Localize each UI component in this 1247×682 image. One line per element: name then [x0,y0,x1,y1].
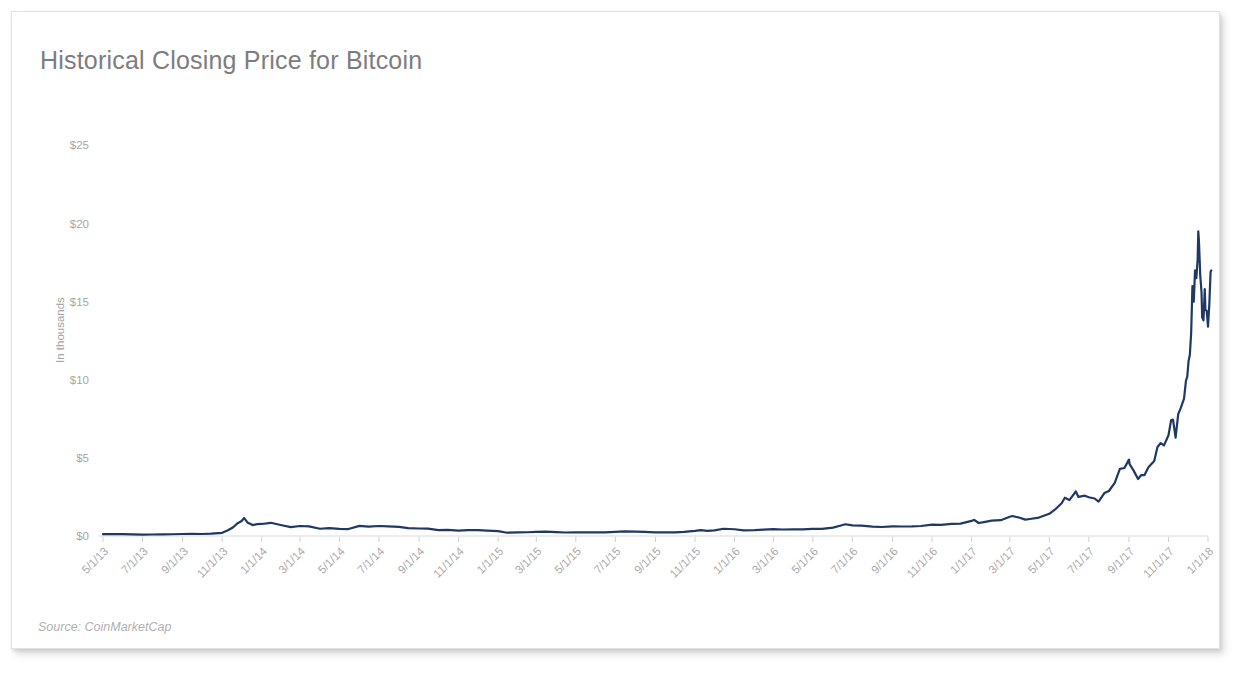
x-axis-tick-label: 1/1/17 [948,545,979,576]
x-axis-tick-label: 1/1/16 [711,545,742,576]
x-axis-tick-label: 9/1/13 [159,545,190,576]
y-axis-tick-label: $0 [76,530,89,542]
x-axis-tick-label: 7/1/15 [592,545,623,576]
source-note: Source: CoinMarketCap [38,620,171,634]
x-axis-tick-label: 5/1/13 [79,545,110,576]
x-axis-tick-label: 9/1/14 [395,545,427,577]
y-axis-tick-label: $10 [70,374,89,386]
x-axis-tick-label: 9/1/17 [1105,545,1136,576]
series-line-0 [103,231,1211,534]
x-axis-tick-label: 7/1/14 [355,545,387,577]
y-axis-tick-label: $5 [76,452,89,464]
x-axis-tick-label: 11/1/14 [431,545,466,580]
y-axis-tick-label: $15 [70,296,89,308]
x-axis-tick-group: 5/1/137/1/139/1/1311/1/131/1/143/1/145/1… [79,537,1215,580]
chart-card: Historical Closing Price for Bitcoin $0$… [11,11,1220,649]
x-axis-tick-label: 7/1/13 [119,545,150,576]
x-axis-tick-label: 5/1/17 [1026,545,1057,576]
x-axis-tick-label: 11/1/17 [1141,545,1176,580]
x-axis-tick-label: 7/1/17 [1065,545,1096,576]
x-axis-tick-label: 1/1/18 [1184,545,1215,576]
x-axis-tick-label: 5/1/14 [316,545,348,577]
chart-plot-area: $0$5$10$15$20$25 5/1/137/1/139/1/1311/1/… [12,12,1221,650]
screenshot-root: Historical Closing Price for Bitcoin $0$… [0,0,1247,682]
x-axis-tick-label: 1/1/14 [238,545,270,577]
x-axis-tick-label: 11/1/13 [195,545,230,580]
line-chart: $0$5$10$15$20$25 5/1/137/1/139/1/1311/1/… [12,12,1221,650]
x-axis-tick-label: 5/1/16 [789,545,820,576]
x-axis-tick-label: 3/1/14 [276,545,308,577]
x-axis-tick-label: 1/1/15 [474,545,505,576]
x-axis-tick-label: 7/1/16 [829,545,860,576]
x-axis-tick-label: 3/1/15 [513,545,544,576]
x-axis-tick-label: 9/1/15 [632,545,663,576]
y-axis-tick-group: $0$5$10$15$20$25 [70,139,89,542]
y-axis-tick-label: $25 [70,139,89,151]
y-axis-title: In thousands [54,297,66,363]
x-axis-tick-label: 3/1/16 [750,545,781,576]
x-axis-tick-label: 11/1/16 [904,545,939,580]
x-axis-tick-label: 3/1/17 [986,545,1017,576]
x-axis-tick-label: 9/1/16 [869,545,900,576]
y-axis-tick-label: $20 [70,218,89,230]
series-group [103,231,1211,534]
x-axis-tick-label: 5/1/15 [552,545,583,576]
x-axis-tick-label: 11/1/15 [667,545,702,580]
